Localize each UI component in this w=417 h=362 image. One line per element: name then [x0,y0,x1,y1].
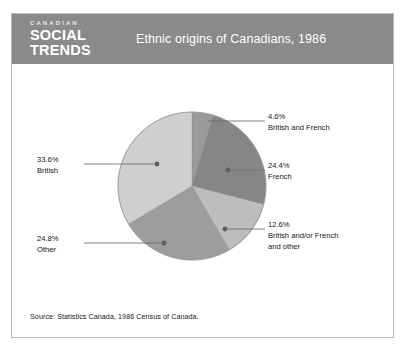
logo-line-social: SOCIAL [30,28,114,43]
source-note: Source: Statistics Canada, 1986 Census o… [30,312,199,321]
pie-slices [118,112,266,260]
label-british-pct: 33.6% [37,155,59,164]
label-other-pct: 24.8% [37,234,59,243]
logo-line-trends: TRENDS [30,43,114,58]
chart-title: Ethnic origins of Canadians, 1986 [136,32,326,46]
label-british-andor-french-and-other-name-line2: and other [268,242,301,251]
logo-line-canadian: CANADIAN [30,20,114,26]
label-british-andor-french-and-other-pct: 12.6% [268,220,290,229]
label-french-name: French [268,172,292,181]
label-other-name: Other [37,245,56,254]
screenshot-root: CANADIAN SOCIAL TRENDS Ethnic origins of… [0,0,417,362]
label-british-name: British [37,166,58,175]
label-british-and-french-name: British and French [268,123,330,132]
pie-chart-plot-area: 4.6% British and French 24.4% French 12.… [12,64,393,337]
chart-header: CANADIAN SOCIAL TRENDS Ethnic origins of… [12,14,393,64]
label-british-andor-french-and-other-name-line1: British and/or French [268,231,338,240]
canadian-social-trends-logo: CANADIAN SOCIAL TRENDS [30,20,114,59]
label-french-pct: 24.4% [268,161,290,170]
pie-chart-svg: 4.6% British and French 24.4% French 12.… [12,64,393,337]
label-british-and-french-pct: 4.6% [268,112,286,121]
chart-card: CANADIAN SOCIAL TRENDS Ethnic origins of… [11,13,394,338]
